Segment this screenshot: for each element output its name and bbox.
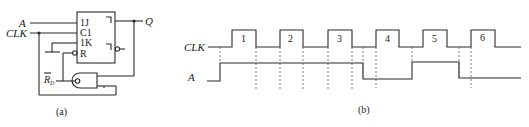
pin-1k: 1K [80,37,93,48]
pulse-label-6: 6 [480,32,485,43]
pin-r: R [80,48,87,59]
signal-label-a: A [187,71,195,83]
input-label-clk: CLK [6,27,27,39]
timing-diagram: CLK A 1 2 3 4 5 6 (b) [184,30,521,116]
postponed-output-mark-q [106,17,111,23]
figure-canvas: 1J C1 1K R A CLK RD [0,0,529,127]
nand-bubble [75,79,79,83]
qbar-bubble [115,47,119,51]
signal-label-clk: CLK [184,41,205,53]
pulse-label-2: 2 [288,33,293,44]
clk-waveform [208,30,521,47]
reset-bubble [73,51,77,55]
pulse-label-5: 5 [432,33,437,44]
reset-label: RD [43,74,55,86]
caption-b: (b) [358,104,370,116]
caption-a: (a) [56,106,67,118]
circuit-diagram: 1J C1 1K R A CLK RD [6,12,153,118]
a-waveform [207,62,521,81]
output-label-q: Q [145,15,153,27]
pulse-label-1: 1 [241,33,246,44]
timing-guides [220,47,471,90]
pulse-label-3: 3 [337,33,342,44]
postponed-output-mark-qbar [106,44,111,50]
pulse-label-4: 4 [385,33,390,44]
